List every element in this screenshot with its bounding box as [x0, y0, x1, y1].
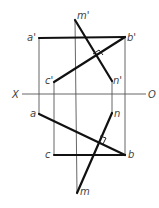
line-m-prime-n-prime [75, 20, 112, 81]
label-axis-x: X [11, 89, 20, 100]
line-a-prime-b-prime [39, 37, 125, 38]
line-a-b [39, 114, 125, 155]
projector-m [75, 20, 77, 193]
label-m-prime: m' [77, 10, 90, 21]
label-c: c [45, 149, 51, 160]
label-axis-o: O [148, 89, 156, 100]
label-m: m [80, 186, 90, 197]
line-m-n [77, 113, 112, 193]
label-n: n [114, 108, 120, 119]
label-b: b [128, 149, 134, 160]
label-n-prime: n' [113, 75, 122, 86]
projection-diagram: m' a' b' c' n' X O a n c b m [0, 0, 159, 208]
label-a: a [30, 108, 36, 119]
label-c-prime: c' [45, 75, 53, 86]
label-a-prime: a' [27, 32, 36, 43]
label-b-prime: b' [127, 32, 136, 43]
